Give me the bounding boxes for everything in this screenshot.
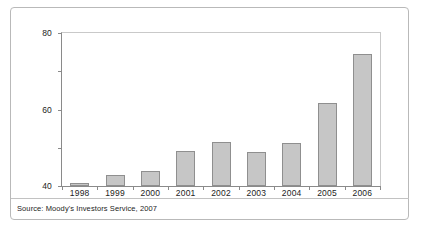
y-axis-tick: 80 xyxy=(58,33,62,34)
y-axis-tick: 40 xyxy=(58,110,62,111)
y-axis-tick: 60 xyxy=(58,71,62,72)
x-axis-tick-label: 2005 xyxy=(317,188,337,198)
plot-wrapper: 020406080 199819992000200120022003200420… xyxy=(11,8,410,221)
bar xyxy=(106,175,125,186)
bar xyxy=(282,143,301,186)
y-axis-tick-label: 80 xyxy=(42,28,52,38)
source-note: Source: Moody's Investors Service, 2007 xyxy=(17,204,157,213)
bar xyxy=(212,142,231,186)
x-axis-tick-label: 2001 xyxy=(176,188,196,198)
y-axis-tick-label: 40 xyxy=(42,181,52,191)
figure-container: 020406080 199819992000200120022003200420… xyxy=(0,0,421,243)
x-axis-tick-label: 2004 xyxy=(282,188,302,198)
bar xyxy=(318,103,337,186)
chart-panel: 020406080 199819992000200120022003200420… xyxy=(10,7,409,220)
x-axis-tick-label: 2002 xyxy=(211,188,231,198)
y-axis-tick-label: 60 xyxy=(42,105,52,115)
x-axis-tick-label: 1999 xyxy=(105,188,125,198)
bar xyxy=(353,54,372,186)
source-divider xyxy=(11,198,409,199)
figure-caption xyxy=(12,232,312,243)
y-axis-tick: 20 xyxy=(58,148,62,149)
x-axis-tick-label: 2006 xyxy=(352,188,372,198)
x-axis-tick-label: 2000 xyxy=(140,188,160,198)
plot-area: 020406080 xyxy=(61,32,381,187)
bar xyxy=(247,152,266,186)
bar xyxy=(176,151,195,186)
bar xyxy=(70,183,89,186)
bar xyxy=(141,171,160,186)
x-axis-labels: 199819992000200120022003200420052006 xyxy=(61,188,381,202)
x-axis-tick-label: 1998 xyxy=(70,188,90,198)
x-axis-tick-label: 2003 xyxy=(246,188,266,198)
